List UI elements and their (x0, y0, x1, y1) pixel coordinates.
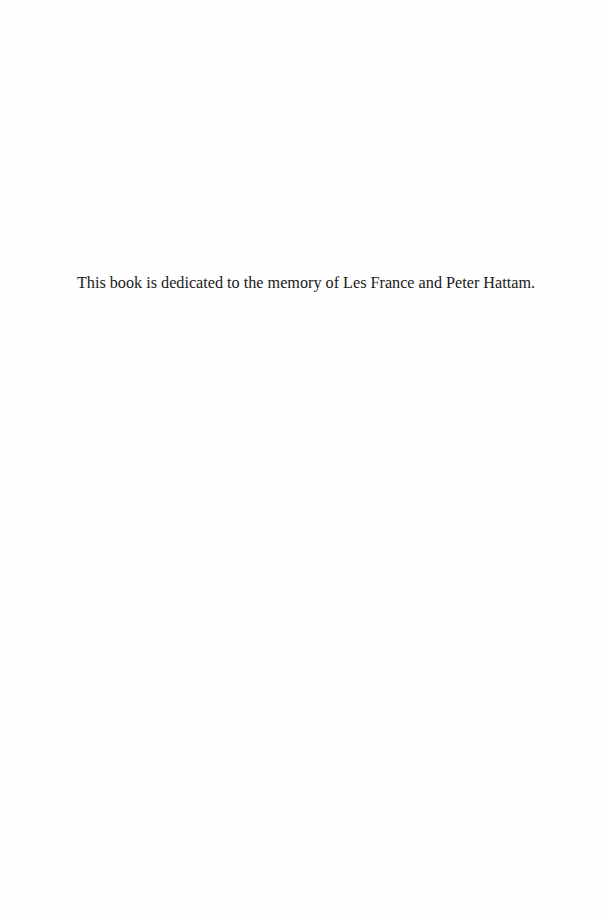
book-page: This book is dedicated to the memory of … (0, 0, 606, 921)
dedication-text: This book is dedicated to the memory of … (0, 273, 606, 293)
